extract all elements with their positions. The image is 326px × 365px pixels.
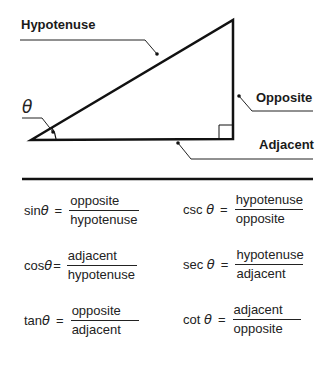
theta-symbol: θ (207, 257, 215, 272)
theta-symbol: θ (44, 258, 52, 273)
numerator: hypotenuse (235, 193, 305, 209)
fn-name: cot (183, 312, 204, 327)
equals-sign: = (221, 257, 229, 272)
equals-sign: = (55, 203, 63, 218)
hypotenuse-leader-line (20, 40, 157, 54)
fn-name: cos (24, 258, 44, 273)
theta-symbol: θ (41, 203, 49, 218)
formula-tan: tanθ = opposite adjacent (24, 304, 139, 337)
numerator: adjacent (233, 303, 285, 319)
denominator: opposite (235, 210, 287, 226)
denominator: hypotenuse (69, 211, 139, 227)
formula-sin: sinθ = opposite hypotenuse (24, 194, 139, 227)
fn-name: tan (24, 313, 42, 328)
denominator: hypotenuse (67, 266, 137, 282)
theta-symbol: θ (204, 312, 212, 327)
angle-theta-label: θ (22, 97, 32, 117)
numerator: opposite (71, 304, 123, 320)
equals-sign: = (220, 202, 228, 217)
numerator: hypotenuse (235, 248, 305, 264)
formula-sec: sec θ = hypotenuse adjacent (183, 248, 303, 281)
formula-cos: cosθ = adjacent hypotenuse (24, 249, 137, 282)
opposite-label: Opposite (256, 90, 312, 105)
angle-leader-dot (51, 130, 55, 134)
fn-name: sin (24, 203, 41, 218)
theta-symbol: θ (206, 202, 214, 217)
fn-name: sec (183, 257, 207, 272)
hypotenuse-label: Hypotenuse (21, 17, 95, 32)
equals-sign: = (53, 258, 61, 273)
formula-cot: cot θ = adjacent opposite (183, 303, 301, 336)
fn-name: csc (183, 202, 206, 217)
numerator: adjacent (67, 249, 119, 265)
equals-sign: = (218, 312, 226, 327)
formula-csc: csc θ = hypotenuse opposite (183, 193, 303, 226)
equals-sign: = (56, 313, 64, 328)
hypotenuse-leader-dot (155, 52, 159, 56)
right-triangle (31, 20, 233, 140)
denominator: opposite (233, 320, 285, 336)
denominator: adjacent (235, 265, 287, 281)
right-angle-marker (219, 125, 233, 139)
theta-symbol: θ (42, 313, 50, 328)
adjacent-leader-dot (176, 141, 180, 145)
opposite-leader-dot (237, 94, 241, 98)
denominator: adjacent (71, 321, 123, 337)
numerator: opposite (69, 194, 121, 210)
adjacent-label: Adjacent (259, 137, 314, 152)
